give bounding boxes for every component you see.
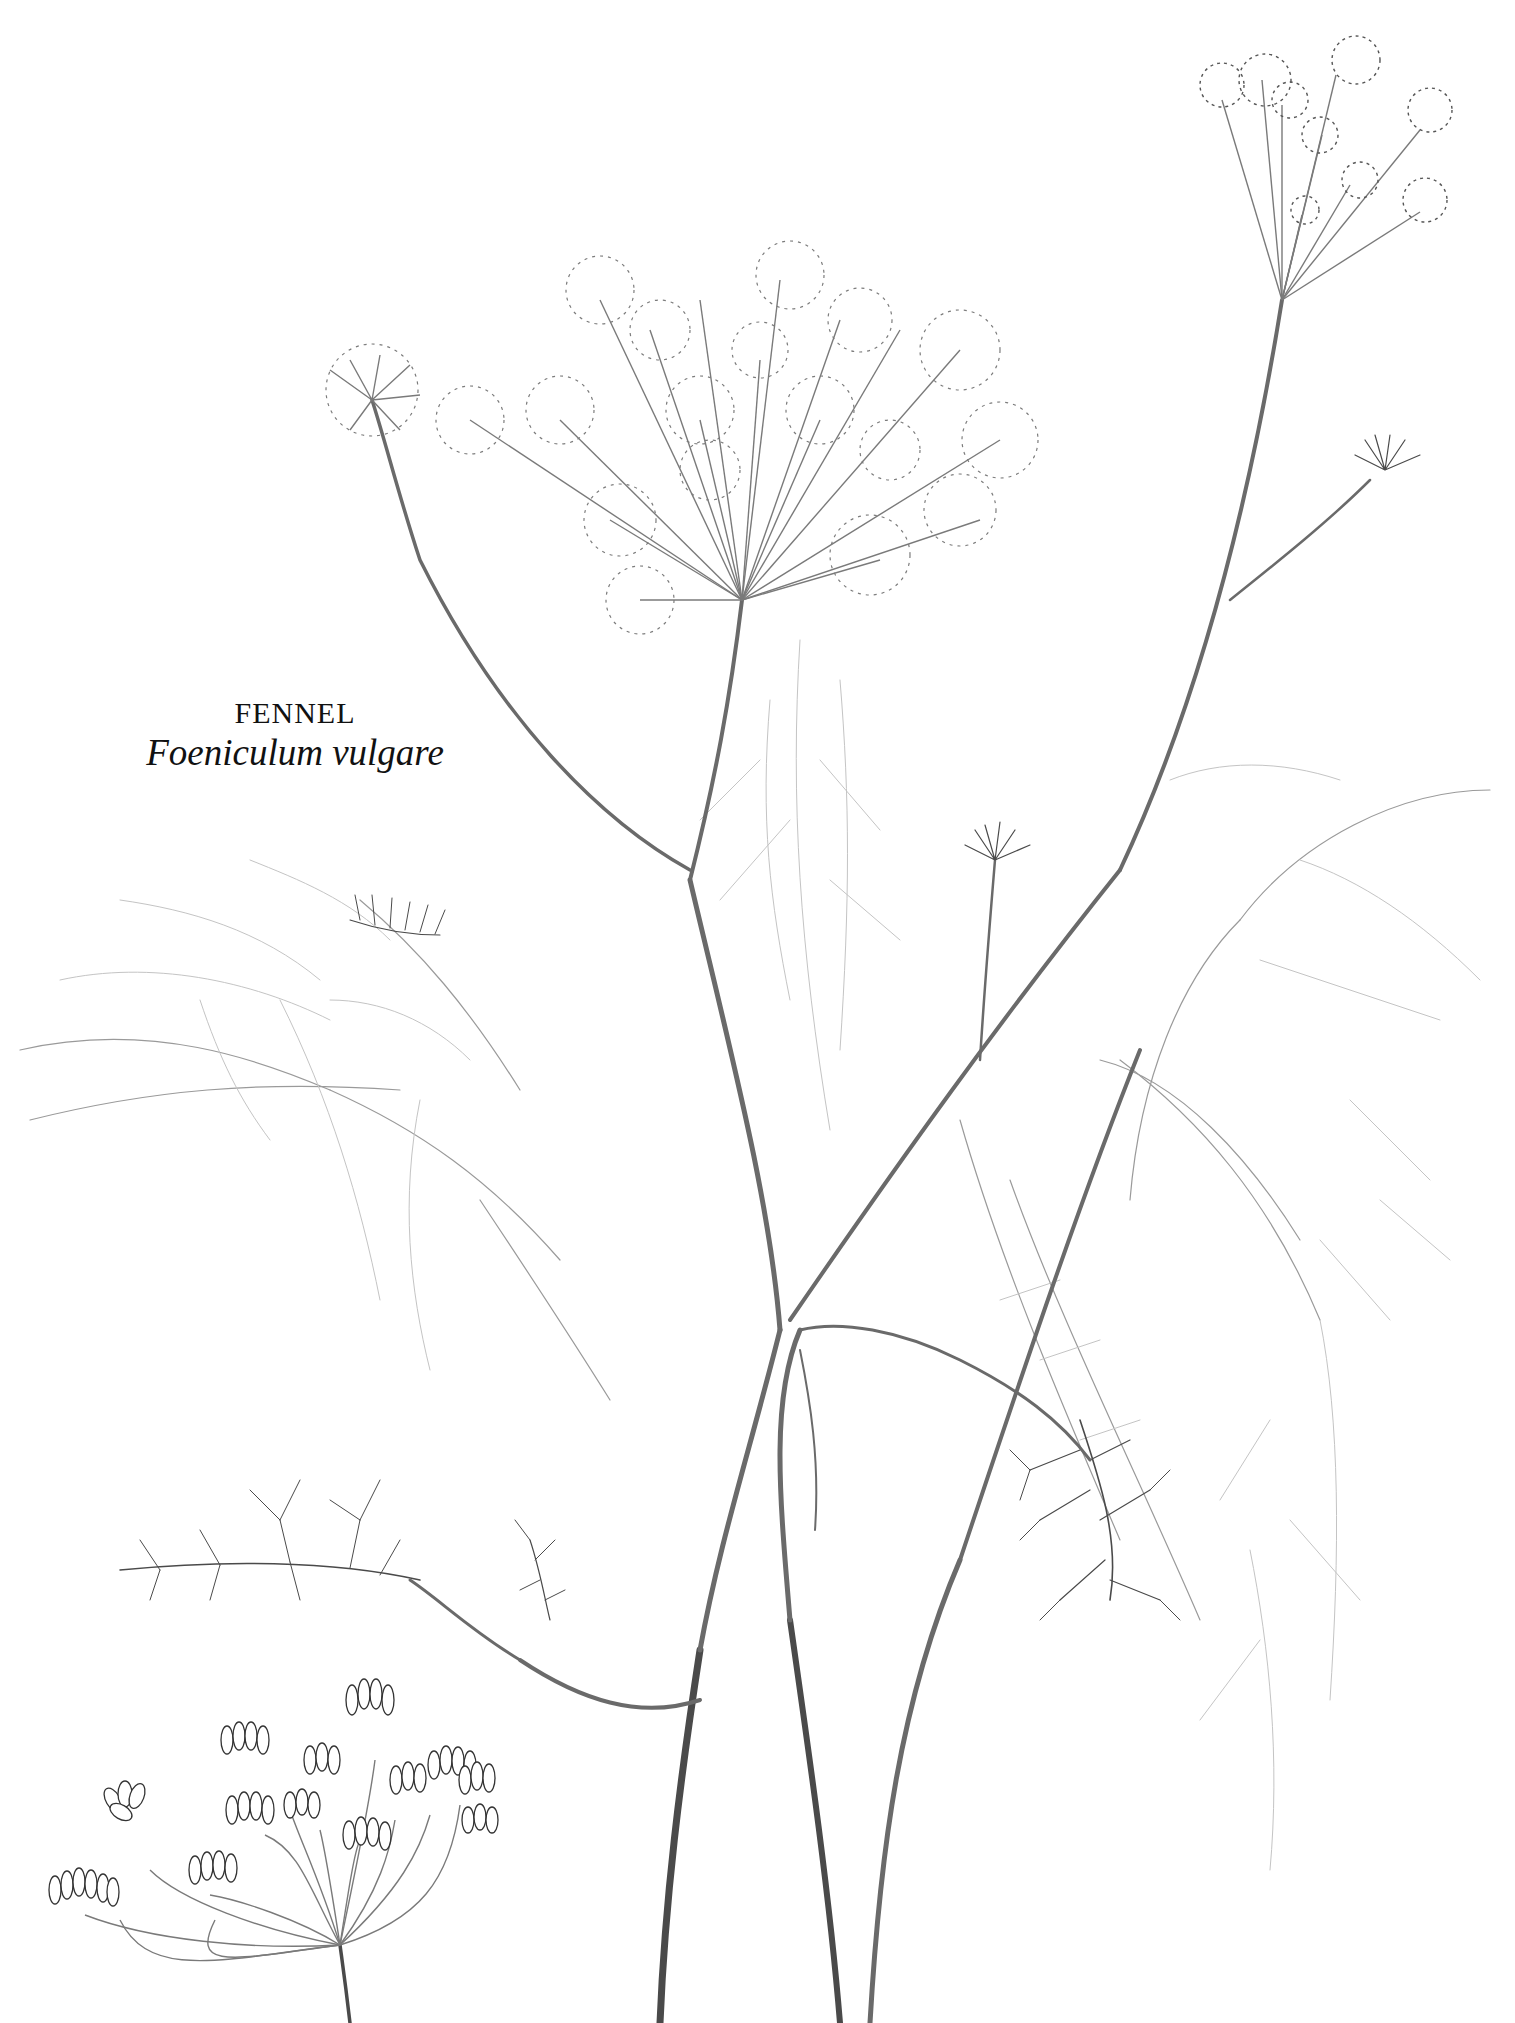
fennel-illustration (0, 0, 1515, 2023)
feathery-leaves (20, 640, 1490, 1870)
common-name: FENNEL (110, 695, 480, 731)
botanical-plate: FENNEL Foeniculum vulgare (0, 0, 1515, 2023)
seed-head-umbel (49, 1679, 498, 1961)
top-right-flower-umbel (1200, 36, 1452, 300)
plant-caption: FENNEL Foeniculum vulgare (110, 695, 480, 775)
main-flower-umbel (326, 241, 1038, 634)
latin-name: Foeniculum vulgare (110, 731, 480, 775)
main-stems (340, 300, 1370, 2023)
